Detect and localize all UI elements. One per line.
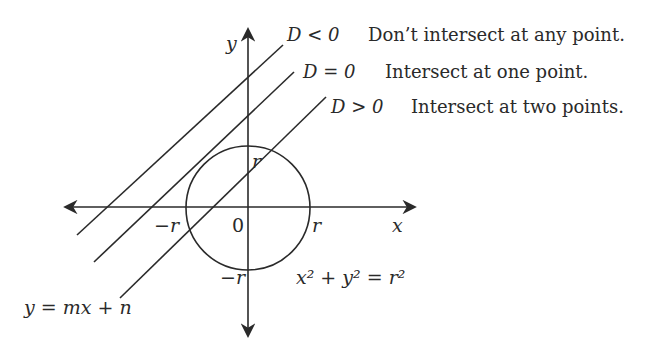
case-condition: D < 0 [286, 24, 339, 45]
case-condition: D > 0 [330, 96, 383, 117]
tick-neg-y: −r [220, 266, 247, 288]
case-condition: D = 0 [302, 61, 355, 82]
tick-pos-x: r [312, 214, 323, 236]
circle-line-diagram: y x 0 r r −r −r x² + y² = r² y = mx + n … [0, 0, 657, 358]
x-axis-label: x [392, 214, 403, 236]
origin-label: 0 [232, 214, 244, 236]
tick-neg-x: −r [154, 214, 181, 236]
case-description: Intersect at two points. [411, 96, 624, 117]
case-description: Intersect at one point. [385, 61, 588, 82]
line-equation: y = mx + n [23, 296, 132, 318]
y-axis-label: y [225, 32, 237, 54]
circle-equation: x² + y² = r² [296, 266, 405, 288]
line-tangent [94, 72, 294, 262]
case-description: Don’t intersect at any point. [368, 24, 625, 45]
